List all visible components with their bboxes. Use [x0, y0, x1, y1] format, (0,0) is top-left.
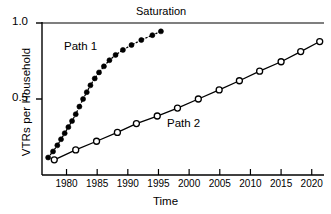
y-axis-ticks: [36, 23, 42, 99]
y-tick-label-1-0: 1.0: [12, 16, 28, 28]
x-axis-ticks: [67, 169, 312, 175]
series-2-marker: [195, 96, 201, 102]
series-2-marker: [94, 138, 100, 144]
series-1-marker: [113, 52, 118, 57]
series-2-marker: [236, 78, 242, 84]
series-2-marker: [114, 129, 120, 135]
series-1-marker: [92, 76, 97, 81]
series-2-marker: [257, 68, 263, 74]
series-1-marker: [129, 43, 134, 48]
x-tick-label-1980: 1980: [51, 178, 83, 189]
series-1-marker: [97, 70, 102, 75]
series-1-marker: [59, 137, 64, 142]
series-1-marker: [70, 119, 75, 124]
x-tick-label-1985: 1985: [81, 178, 113, 189]
series-2-marker: [216, 87, 222, 93]
series-1-marker: [150, 33, 155, 38]
series-1-marker: [66, 125, 71, 130]
series-2-marker: [317, 39, 323, 45]
saturation-label: Saturation: [136, 6, 186, 17]
series-2-marker: [51, 157, 57, 163]
x-tick-label-1995: 1995: [142, 178, 174, 189]
series-1-marker: [101, 64, 106, 69]
x-tick-label-2020: 2020: [296, 178, 328, 189]
series-1-marker: [51, 149, 56, 154]
series-2-marker: [278, 59, 284, 65]
x-axis-label: Time: [0, 195, 331, 207]
x-tick-label-2015: 2015: [265, 178, 297, 189]
series-1-marker: [81, 97, 86, 102]
y-tick-label-0-5: 0.5: [12, 92, 28, 104]
series-1-marker: [46, 155, 51, 160]
series-1-marker: [107, 58, 112, 63]
series-2-marker: [174, 105, 180, 111]
x-tick-label-1990: 1990: [112, 178, 144, 189]
series-1-marker: [62, 131, 67, 136]
series-2-marker: [154, 113, 160, 119]
series-1-marker: [84, 90, 89, 95]
series-1-marker: [55, 143, 60, 148]
series-2: [51, 39, 322, 163]
series-2-marker: [73, 147, 79, 153]
series-2-marker: [133, 121, 139, 127]
series-1-marker: [88, 83, 93, 88]
series-1-marker: [120, 47, 125, 52]
chart-container: VTRs per Household Time 1.0 0.5 Saturati…: [0, 0, 331, 214]
series-1-marker: [158, 29, 163, 34]
path1-label: Path 1: [64, 41, 97, 53]
x-tick-label-2010: 2010: [234, 178, 266, 189]
path2-label: Path 2: [167, 118, 200, 130]
series-1-marker: [77, 104, 82, 109]
series-2-marker: [298, 49, 304, 55]
series-1-marker: [73, 112, 78, 117]
x-tick-label-2000: 2000: [173, 178, 205, 189]
series-1-marker: [139, 38, 144, 43]
x-tick-label-2005: 2005: [204, 178, 236, 189]
